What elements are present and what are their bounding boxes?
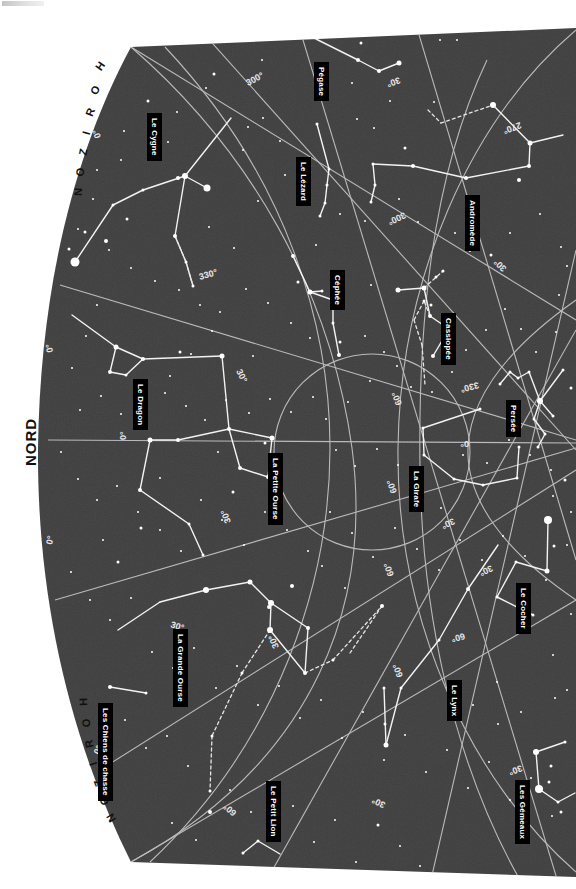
background-star bbox=[488, 761, 490, 763]
star bbox=[517, 178, 521, 182]
background-star bbox=[564, 479, 567, 482]
background-star bbox=[502, 535, 504, 537]
star bbox=[84, 231, 87, 234]
star bbox=[204, 185, 211, 192]
star bbox=[528, 141, 533, 146]
background-star bbox=[185, 405, 187, 407]
background-star bbox=[456, 39, 458, 41]
star bbox=[270, 436, 275, 441]
background-star bbox=[344, 587, 346, 589]
background-star bbox=[257, 200, 259, 202]
background-star bbox=[481, 559, 483, 561]
background-star bbox=[123, 130, 125, 132]
star bbox=[370, 201, 373, 204]
background-star bbox=[351, 82, 353, 84]
background-star bbox=[204, 419, 206, 421]
constellation-line bbox=[529, 143, 530, 166]
background-star bbox=[208, 226, 210, 228]
star bbox=[499, 383, 502, 386]
star bbox=[71, 258, 80, 267]
background-star bbox=[117, 561, 120, 564]
star bbox=[185, 261, 188, 264]
background-star bbox=[472, 704, 474, 706]
background-star bbox=[339, 213, 341, 215]
star bbox=[466, 587, 470, 591]
star bbox=[211, 735, 214, 738]
background-star bbox=[552, 495, 554, 497]
background-star bbox=[321, 565, 323, 567]
background-star bbox=[215, 687, 217, 689]
star bbox=[267, 605, 271, 609]
background-star bbox=[566, 265, 568, 267]
background-star bbox=[404, 734, 406, 736]
background-star bbox=[356, 118, 358, 120]
star bbox=[372, 163, 375, 166]
constellation-label-le-lynx: Le Lynx bbox=[447, 680, 462, 721]
background-star bbox=[372, 556, 374, 558]
background-star bbox=[108, 249, 110, 251]
star bbox=[516, 477, 519, 480]
background-star bbox=[341, 737, 343, 739]
star bbox=[560, 811, 563, 814]
star bbox=[308, 290, 313, 295]
background-star bbox=[570, 613, 572, 615]
constellation-line bbox=[423, 428, 424, 455]
constellation-label-cassiopee: Cassiopée bbox=[441, 313, 456, 365]
background-star bbox=[243, 544, 245, 546]
constellation-label-le-dragon: Le Dragon bbox=[133, 379, 148, 430]
star bbox=[321, 290, 324, 293]
star bbox=[337, 353, 341, 357]
background-star bbox=[247, 126, 249, 128]
star bbox=[306, 626, 310, 630]
background-star bbox=[373, 127, 375, 129]
constellation-label-les-gemeaux: Les Gémeaux bbox=[515, 780, 530, 844]
background-star bbox=[193, 647, 195, 649]
background-star bbox=[262, 117, 264, 119]
background-star bbox=[465, 349, 467, 351]
background-star bbox=[245, 288, 247, 290]
star bbox=[384, 743, 389, 748]
background-star bbox=[364, 335, 366, 337]
star bbox=[112, 204, 115, 207]
star bbox=[396, 288, 401, 293]
star bbox=[548, 781, 551, 784]
star bbox=[550, 765, 553, 768]
background-star bbox=[396, 365, 398, 367]
star bbox=[544, 433, 547, 436]
constellation-label-la-petite-ourse: La Petite Ourse bbox=[268, 453, 283, 525]
background-star bbox=[309, 337, 311, 339]
star bbox=[377, 69, 381, 73]
star bbox=[562, 369, 565, 372]
constellation-label-cephee: Céphée bbox=[330, 270, 345, 310]
star bbox=[114, 345, 119, 350]
background-star bbox=[60, 451, 62, 453]
background-star bbox=[439, 39, 441, 41]
background-star bbox=[354, 465, 356, 467]
star bbox=[377, 824, 380, 827]
background-star bbox=[410, 386, 412, 388]
constellation-label-le-lezard: Le Lézard bbox=[296, 157, 311, 206]
star bbox=[182, 173, 188, 179]
star bbox=[179, 351, 182, 354]
grid-degree-label: 0° bbox=[460, 439, 469, 449]
background-star bbox=[130, 267, 132, 269]
background-star bbox=[96, 499, 98, 501]
star bbox=[482, 484, 485, 487]
star bbox=[515, 561, 518, 564]
background-star bbox=[178, 289, 180, 291]
background-star bbox=[200, 499, 202, 501]
star bbox=[332, 659, 335, 662]
star bbox=[319, 215, 322, 218]
star bbox=[125, 374, 128, 377]
star bbox=[479, 408, 482, 411]
star bbox=[404, 147, 407, 150]
background-star bbox=[190, 353, 192, 355]
background-star bbox=[242, 149, 244, 151]
background-star bbox=[299, 717, 301, 719]
star bbox=[339, 341, 342, 344]
star bbox=[423, 454, 426, 457]
background-star bbox=[109, 619, 111, 621]
constellation-label-la-girafe: La Girafe bbox=[409, 466, 424, 512]
background-star bbox=[213, 73, 216, 76]
background-star bbox=[137, 511, 139, 513]
